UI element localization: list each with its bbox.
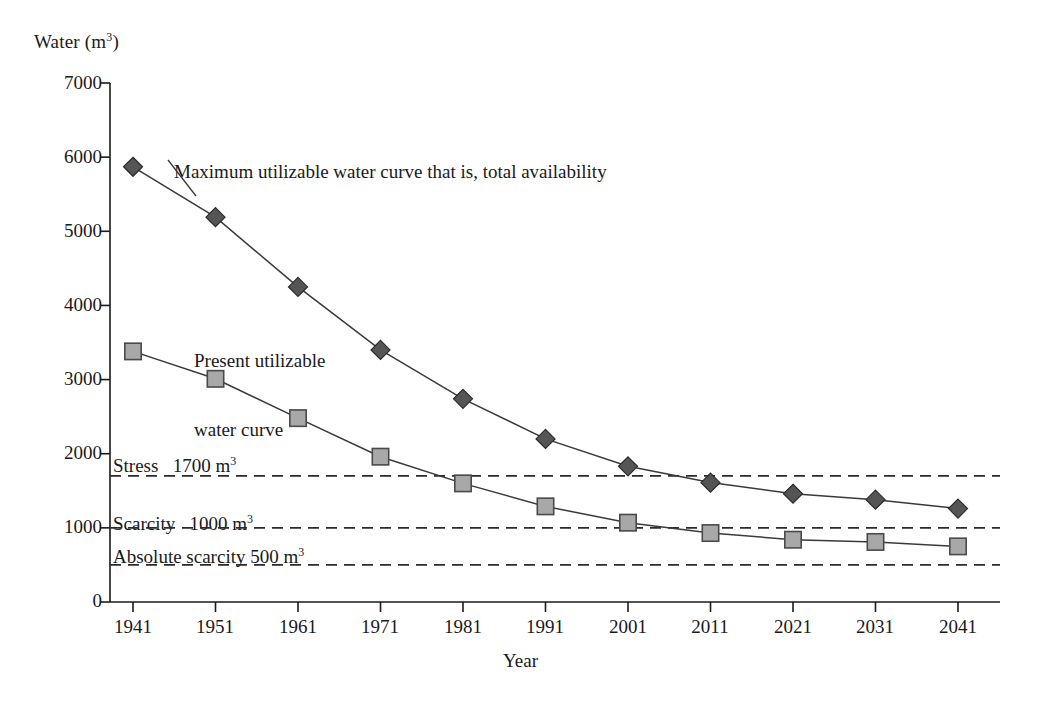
marker-square-1961 <box>290 410 306 426</box>
marker-square-2031 <box>867 534 883 550</box>
series-markers <box>124 157 968 554</box>
marker-diamond-2041 <box>949 499 968 518</box>
series-lines <box>133 167 958 547</box>
marker-square-1951 <box>207 371 223 387</box>
marker-square-1971 <box>372 448 388 464</box>
marker-square-2021 <box>785 532 801 548</box>
marker-square-2011 <box>702 525 718 541</box>
series-line-0 <box>133 167 958 509</box>
marker-diamond-1961 <box>289 277 308 296</box>
marker-square-2041 <box>950 538 966 554</box>
marker-square-1991 <box>537 498 553 514</box>
y-axis-ticks <box>100 83 110 602</box>
marker-diamond-1941 <box>124 157 143 176</box>
marker-diamond-2001 <box>619 457 638 476</box>
marker-diamond-1951 <box>206 208 225 227</box>
marker-diamond-2011 <box>701 473 720 492</box>
marker-diamond-2031 <box>866 490 885 509</box>
marker-diamond-2021 <box>784 484 803 503</box>
marker-square-2001 <box>620 514 636 530</box>
marker-diamond-1991 <box>536 429 555 448</box>
x-axis-ticks <box>133 602 958 612</box>
marker-square-1941 <box>125 343 141 359</box>
chart-canvas: Water (m3) 7000 6000 5000 4000 3000 2000… <box>0 0 1041 703</box>
marker-square-1981 <box>455 475 471 491</box>
threshold-lines <box>110 476 1000 565</box>
plot-area <box>0 0 1041 703</box>
marker-diamond-1971 <box>371 340 390 359</box>
marker-diamond-1981 <box>454 389 473 408</box>
axis-lines <box>110 83 1000 602</box>
